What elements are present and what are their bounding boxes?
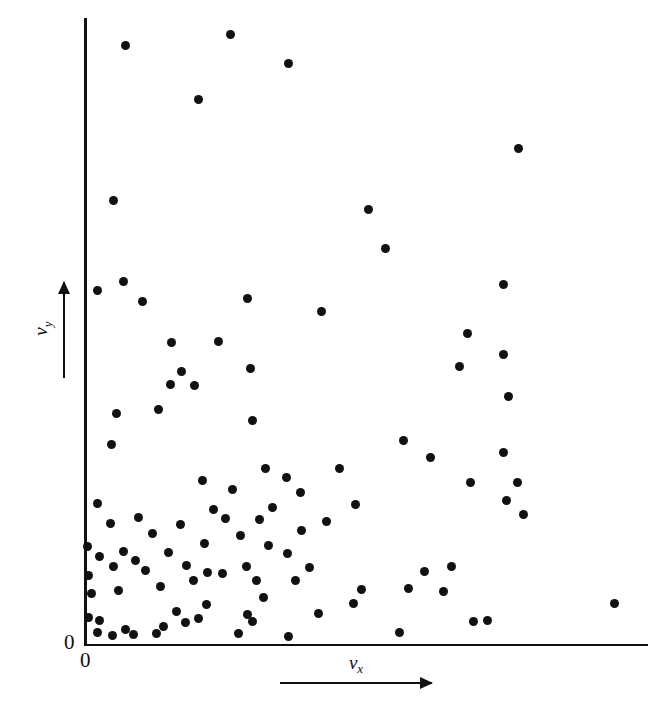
data-point bbox=[259, 593, 268, 602]
data-point bbox=[305, 563, 314, 572]
data-point bbox=[463, 329, 472, 338]
data-point bbox=[349, 599, 358, 608]
data-point bbox=[610, 599, 619, 608]
x-axis-zero-label: 0 bbox=[80, 650, 91, 671]
x-axis-label: vx bbox=[280, 652, 432, 677]
data-point bbox=[167, 338, 176, 347]
data-point bbox=[141, 566, 150, 575]
data-point bbox=[283, 549, 292, 558]
data-point bbox=[154, 405, 163, 414]
y-axis-zero-label: 0 bbox=[64, 632, 75, 653]
data-point bbox=[466, 478, 475, 487]
data-point bbox=[381, 244, 390, 253]
data-point bbox=[519, 510, 528, 519]
y-axis-label-subscript: y bbox=[40, 321, 55, 327]
data-point bbox=[109, 562, 118, 571]
data-point bbox=[291, 576, 300, 585]
data-point bbox=[499, 350, 508, 359]
data-point bbox=[483, 616, 492, 625]
data-point bbox=[87, 589, 96, 598]
data-point bbox=[226, 30, 235, 39]
data-point bbox=[152, 629, 161, 638]
data-point bbox=[131, 556, 140, 565]
data-point bbox=[221, 514, 230, 523]
data-point bbox=[107, 440, 116, 449]
data-point bbox=[93, 628, 102, 637]
data-point bbox=[234, 629, 243, 638]
data-point bbox=[399, 436, 408, 445]
data-point bbox=[108, 631, 117, 640]
data-point bbox=[351, 500, 360, 509]
data-point bbox=[176, 520, 185, 529]
data-point bbox=[119, 547, 128, 556]
data-point bbox=[499, 280, 508, 289]
data-point bbox=[172, 607, 181, 616]
data-point bbox=[119, 277, 128, 286]
data-point bbox=[166, 380, 175, 389]
y-axis-label: vy bbox=[30, 302, 55, 356]
data-point bbox=[138, 297, 147, 306]
data-point bbox=[322, 517, 331, 526]
data-point bbox=[200, 539, 209, 548]
y-axis-arrow-icon bbox=[63, 282, 65, 378]
y-axis-line bbox=[84, 18, 87, 646]
data-point bbox=[314, 609, 323, 618]
data-point bbox=[236, 531, 245, 540]
data-point bbox=[114, 586, 123, 595]
data-point bbox=[499, 448, 508, 457]
data-point bbox=[181, 618, 190, 627]
data-point bbox=[268, 503, 277, 512]
data-point bbox=[261, 464, 270, 473]
data-point bbox=[198, 476, 207, 485]
x-axis-label-group: vx bbox=[280, 652, 450, 698]
data-point bbox=[194, 95, 203, 104]
data-point bbox=[264, 541, 273, 550]
data-point bbox=[317, 307, 326, 316]
data-point bbox=[357, 585, 366, 594]
plot-area: 0 0 vy vx bbox=[0, 0, 666, 705]
data-point bbox=[209, 505, 218, 514]
data-point bbox=[469, 617, 478, 626]
data-point bbox=[121, 41, 130, 50]
x-axis-arrow-icon bbox=[280, 682, 432, 684]
data-point bbox=[177, 367, 186, 376]
data-point bbox=[84, 571, 93, 580]
data-point bbox=[159, 622, 168, 631]
data-point bbox=[255, 515, 264, 524]
data-point bbox=[404, 584, 413, 593]
data-point bbox=[134, 513, 143, 522]
data-point bbox=[218, 569, 227, 578]
data-point bbox=[202, 600, 211, 609]
data-point bbox=[194, 614, 203, 623]
data-point bbox=[95, 616, 104, 625]
data-point bbox=[420, 567, 429, 576]
data-point bbox=[129, 630, 138, 639]
data-point bbox=[282, 473, 291, 482]
x-axis-line bbox=[84, 644, 648, 647]
data-point bbox=[112, 409, 121, 418]
data-point bbox=[228, 485, 237, 494]
data-point bbox=[121, 625, 130, 634]
data-point bbox=[513, 478, 522, 487]
data-point bbox=[426, 453, 435, 462]
data-point bbox=[83, 542, 92, 551]
data-point bbox=[242, 562, 251, 571]
data-point bbox=[297, 526, 306, 535]
data-point bbox=[504, 392, 513, 401]
data-point bbox=[109, 196, 118, 205]
data-point bbox=[84, 613, 93, 622]
data-point bbox=[248, 617, 257, 626]
data-point bbox=[364, 205, 373, 214]
data-point bbox=[156, 582, 165, 591]
y-axis-label-group: vy bbox=[20, 282, 80, 378]
data-point bbox=[335, 464, 344, 473]
data-point bbox=[106, 519, 115, 528]
data-point bbox=[447, 562, 456, 571]
data-point bbox=[284, 59, 293, 68]
data-point bbox=[395, 628, 404, 637]
data-point bbox=[189, 576, 198, 585]
data-point bbox=[439, 587, 448, 596]
data-point bbox=[248, 416, 257, 425]
data-point bbox=[296, 488, 305, 497]
data-point bbox=[164, 548, 173, 557]
